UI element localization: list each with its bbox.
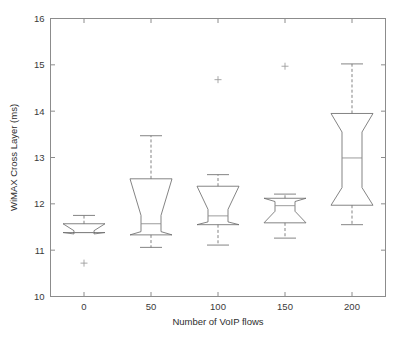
plot-frame bbox=[51, 19, 386, 297]
y-axis-label: WiMAX Cross Layer (ms) bbox=[8, 104, 19, 211]
x-tick-label-50: 50 bbox=[146, 301, 157, 312]
y-tick-label-10: 10 bbox=[34, 291, 45, 302]
y-tick-label-14: 14 bbox=[34, 106, 45, 117]
box-200 bbox=[331, 64, 373, 225]
box-outline bbox=[197, 186, 239, 224]
x-tick-label-0: 0 bbox=[81, 301, 86, 312]
x-axis-label: Number of VoIP flows bbox=[172, 316, 263, 327]
box-outline bbox=[264, 198, 306, 223]
box-outline bbox=[130, 179, 172, 235]
box-50 bbox=[130, 136, 172, 248]
box-0 bbox=[63, 215, 105, 266]
x-tick-label-200: 200 bbox=[344, 301, 360, 312]
y-tick-label-16: 16 bbox=[34, 13, 45, 24]
boxplot-svg: 10111213141516050100150200Number of VoIP… bbox=[0, 0, 403, 340]
box-100 bbox=[197, 76, 239, 245]
y-tick-label-13: 13 bbox=[34, 152, 45, 163]
boxplot-figure: 10111213141516050100150200Number of VoIP… bbox=[0, 0, 403, 340]
y-tick-label-11: 11 bbox=[35, 245, 45, 256]
x-tick-label-150: 150 bbox=[277, 301, 293, 312]
y-tick-label-15: 15 bbox=[34, 59, 45, 70]
box-150 bbox=[264, 63, 306, 238]
y-tick-label-12: 12 bbox=[34, 198, 45, 209]
x-tick-label-100: 100 bbox=[210, 301, 226, 312]
box-outline bbox=[331, 113, 373, 205]
